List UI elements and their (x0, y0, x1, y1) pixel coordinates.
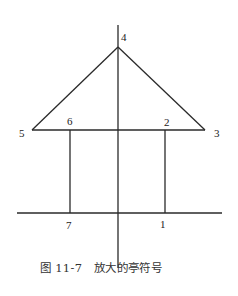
point-label-7: 7 (66, 219, 72, 231)
roof-right-edge (118, 47, 205, 130)
figure-caption: 图 11-7 放大的亭符号 (40, 259, 162, 275)
point-label-5: 5 (19, 127, 25, 139)
point-label-6: 6 (67, 115, 73, 127)
roof-left-edge (32, 47, 118, 130)
point-label-4: 4 (121, 31, 127, 43)
point-label-2: 2 (164, 116, 170, 128)
point-label-1: 1 (160, 218, 166, 230)
point-label-3: 3 (214, 127, 220, 139)
caption-text: 放大的亭符号 (94, 261, 162, 275)
caption-number: 图 11-7 (40, 261, 82, 275)
pavilion-symbol-diagram: 4 5 6 2 3 7 1 (0, 0, 238, 296)
